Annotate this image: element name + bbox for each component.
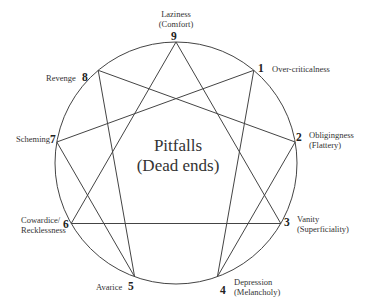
point-8-label: Revenge [46,73,76,83]
point-3-subname: (Superficiality) [297,224,349,234]
point-6-number: 6 [63,218,69,230]
point-3-number: 3 [284,216,290,228]
point-9-label: Laziness (Comfort) [146,9,206,29]
point-1-label: Over-criticalness [272,64,330,74]
point-2-name: Obligingness [309,130,354,140]
point-9-subname: (Comfort) [146,19,206,29]
point-8-number: 8 [82,71,88,83]
triangle-9-3-6 [71,42,281,224]
point-2-label: Obligingness (Flattery) [309,130,354,150]
point-4-label: Depression (Melancholy) [234,277,280,297]
point-2-subname: (Flattery) [309,140,354,150]
point-6-name: Cowardice/ [21,215,66,225]
point-1-number: 1 [258,62,264,74]
point-3-name: Vanity [297,214,349,224]
point-9-name: Laziness [146,9,206,19]
point-6-label: Cowardice/ Recklessness [21,215,66,235]
point-4-number: 4 [220,284,226,296]
point-4-subname: (Melancholy) [234,287,280,297]
point-7-label: Scheming [16,134,50,144]
title-line-1: Pitfalls [126,136,230,156]
point-5-number: 5 [128,280,134,292]
point-6-subname: Recklessness [21,225,66,235]
point-2-number: 2 [296,131,302,143]
point-7-number: 7 [50,133,56,145]
point-9-number: 9 [171,30,177,42]
diagram-title: Pitfalls (Dead ends) [126,136,230,176]
point-4-name: Depression [234,277,280,287]
point-5-label: Avarice [96,282,122,292]
point-3-label: Vanity (Superficiality) [297,214,349,234]
title-line-2: (Dead ends) [126,156,230,176]
